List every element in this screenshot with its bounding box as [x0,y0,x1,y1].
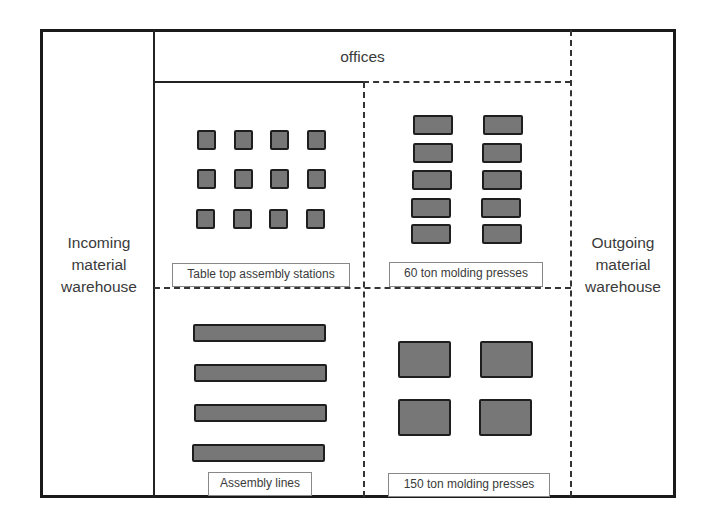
assembly-line [194,364,327,382]
incoming-line2: material [44,254,154,276]
press-60-ton [482,224,522,244]
press-150-ton [479,399,532,436]
cell-label: Assembly lines [208,472,312,496]
assembly-station [197,169,216,189]
assembly-station [307,169,326,189]
press-150-ton [398,399,451,436]
cell-label: Table top assembly stations [172,263,350,287]
press-60-ton [411,198,451,218]
offices-label: offices [154,46,571,68]
outgoing-warehouse-label: Outgoing material warehouse [572,232,674,298]
assembly-station [270,169,289,189]
offices-wall-left [154,81,363,83]
outgoing-line1: Outgoing [572,232,674,254]
assembly-line [194,404,327,422]
assembly-station [269,209,288,229]
outgoing-line3: warehouse [572,276,674,298]
press-60-ton [411,224,451,244]
press-60-ton [413,115,453,135]
press-60-ton [482,143,522,163]
press-60-ton [412,170,452,190]
assembly-station [234,169,253,189]
assembly-station [196,209,215,229]
cell-divider-horizontal [154,287,571,289]
assembly-station [306,209,325,229]
assembly-station [234,130,253,150]
assembly-line [193,324,326,342]
offices-wall-right [363,81,571,83]
outgoing-line2: material [572,254,674,276]
press-150-ton [480,341,533,378]
assembly-station [307,130,326,150]
cell-label: 60 ton molding presses [389,262,543,287]
assembly-station [233,209,252,229]
press-60-ton [413,143,453,163]
press-60-ton [483,115,523,135]
press-60-ton [481,198,521,218]
incoming-warehouse-label: Incoming material warehouse [44,232,154,298]
press-150-ton [398,341,451,378]
assembly-station [197,130,216,150]
cell-label: 150 ton molding presses [388,473,550,497]
cell-divider-vertical [363,82,365,497]
incoming-line3: warehouse [44,276,154,298]
incoming-line1: Incoming [44,232,154,254]
assembly-line [192,444,325,462]
assembly-station [270,130,289,150]
press-60-ton [482,170,522,190]
